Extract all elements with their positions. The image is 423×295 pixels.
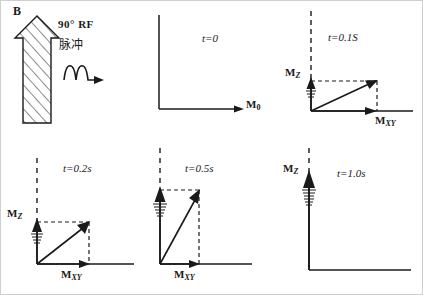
mz-vector: [31, 218, 43, 264]
vector-diagram-t10: [283, 148, 423, 295]
vector-diagram-t02: [1, 148, 142, 295]
resultant-vector: [311, 80, 378, 111]
resultant-vector: [160, 189, 200, 264]
mxy-vector: [311, 107, 377, 115]
axes-t0: [142, 1, 283, 148]
mxy-vector: [37, 260, 90, 268]
panel-t10: t=1.0s MZ: [283, 148, 423, 295]
mz-vector: [302, 170, 316, 270]
mz-vector: [306, 77, 316, 111]
resultant-vector: [37, 221, 90, 264]
mz-vector: [153, 186, 167, 264]
rf-sine-pulse-icon: [64, 66, 104, 84]
x-axis-arrowhead: [234, 106, 244, 113]
mxy-vector: [160, 260, 200, 268]
panel-t05: t=0.5s MXY: [142, 148, 283, 295]
panel-t02: t=0.2s MZ MXY: [1, 148, 142, 295]
vector-diagram-t05: [142, 148, 283, 295]
hatched-up-arrow-icon: [15, 16, 59, 123]
field-arrow-graphic: [1, 1, 142, 148]
vector-diagram-t01: [283, 1, 423, 148]
panel-t0: t=0 M0: [142, 1, 283, 148]
panel-t01: t=0.1S MZ MXY: [283, 1, 423, 148]
panel-static-field: B 90° RF 脉冲: [1, 1, 142, 148]
figure-frame: B 90° RF 脉冲 t=0 M0: [0, 0, 423, 295]
